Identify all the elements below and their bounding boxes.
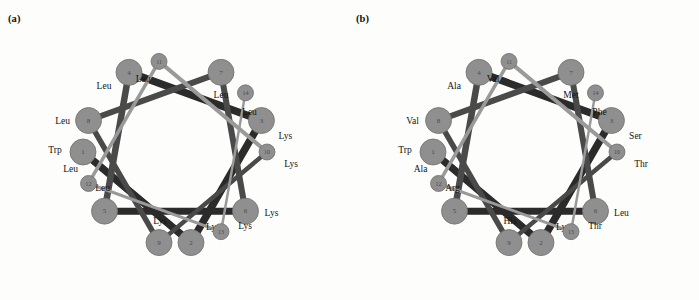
residue-circle[interactable] [259,144,275,160]
residue-node[interactable]: 1Trp [48,139,96,165]
residue-label: Phe [592,107,606,117]
helix-edge [439,121,509,243]
residue-label: Lys [153,216,167,226]
residue-circle[interactable] [237,85,253,101]
panel-b: (b) 1Trp2Lys3Ser4Ala5Arg6Leu7Met8Val9His… [350,0,699,300]
residue-label: Val [487,74,500,84]
residue-label: Lys [284,159,298,169]
residue-label: Val [406,116,419,126]
residue-label: Leu [97,81,112,91]
residue-label: Lys [279,131,293,141]
helical-wheel-b: 1Trp2Lys3Ser4Ala5Arg6Leu7Met8Val9His10Th… [350,0,699,300]
residue-circle[interactable] [587,85,603,101]
residue-node[interactable]: 5Arg [442,183,468,224]
residue-label: Ala [414,164,429,174]
residue-node[interactable]: 8Leu [55,108,101,134]
residue-node[interactable]: 10Lys [259,144,298,169]
figure-root: (a) 1Trp2Lys3Lys4Leu5Leu6Lys7Leu8Leu9Lys… [0,0,699,300]
residue-node[interactable]: 12Leu [63,164,96,191]
residue-label: Leu [614,208,629,218]
residue-circle[interactable] [558,59,584,85]
residue-circle[interactable] [151,53,167,69]
residue-circle[interactable] [426,108,452,134]
residue-node[interactable]: 10Thr [609,144,649,169]
panel-a: (a) 1Trp2Lys3Lys4Leu5Leu6Lys7Leu8Leu9Lys… [0,0,349,300]
residue-circle[interactable] [528,230,554,256]
residue-circle[interactable] [81,175,97,191]
residue-circle[interactable] [70,139,96,165]
residue-node[interactable]: 5Leu [92,183,118,224]
residue-node[interactable]: 8Val [406,108,451,134]
residue-label: Trp [48,145,62,155]
residue-label: Trp [398,145,412,155]
residue-label: Leu [95,183,110,193]
helical-wheel-a: 1Trp2Lys3Lys4Leu5Leu6Lys7Leu8Leu9Lys10Ly… [0,0,349,300]
residue-label: Leu [63,164,78,174]
residue-label: Leu [214,90,229,100]
residue-label: Leu [55,116,70,126]
residue-circle[interactable] [213,224,229,240]
residue-label: Lys [265,208,279,218]
residue-label: Arg [445,183,460,193]
residue-circle[interactable] [609,144,625,160]
residue-circle[interactable] [431,175,447,191]
residue-circle[interactable] [76,108,102,134]
residue-label: Leu [136,74,151,84]
residue-label: Lys [238,221,252,231]
residue-circle[interactable] [496,230,522,256]
residue-node[interactable]: 7Met [558,59,584,100]
residue-label: Ala [447,81,462,91]
residue-node[interactable]: 12Ala [414,164,447,191]
residue-circle[interactable] [92,198,118,224]
residue-label: Thr [588,221,603,231]
residue-circle[interactable] [501,53,517,69]
residue-circle[interactable] [146,230,172,256]
residue-label: Thr [634,159,649,169]
residue-circle[interactable] [178,230,204,256]
residue-node[interactable]: 1Trp [398,139,446,165]
residue-label: Ser [629,131,643,141]
residue-node[interactable]: 4Ala [447,59,492,91]
residue-label: Met [563,90,579,100]
residue-label: His [503,216,517,226]
residue-circle[interactable] [420,139,446,165]
residue-circle[interactable] [563,224,579,240]
residue-label: Leu [242,107,257,117]
residue-circle[interactable] [442,198,468,224]
helix-edge [89,121,159,243]
residue-node[interactable]: 7Leu [208,59,234,100]
residue-circle[interactable] [208,59,234,85]
